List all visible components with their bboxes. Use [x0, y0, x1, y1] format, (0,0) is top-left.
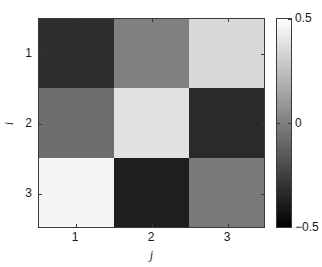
- heatmap-cell-r3c3: [189, 158, 264, 227]
- xtick-label-3: 3: [212, 231, 242, 243]
- ytick-label-1: 1: [16, 47, 32, 59]
- heatmap-cell-r3c1: [39, 158, 114, 227]
- ytick-label-3: 3: [16, 187, 32, 199]
- xtick-mark-top-1: [76, 18, 77, 22]
- xtick-mark-3: [228, 224, 229, 228]
- ytick-mark-right-3: [261, 194, 265, 195]
- xtick-label-1: 1: [60, 231, 90, 243]
- heatmap-cell-r1c1: [39, 19, 114, 88]
- ytick-mark-3: [38, 194, 42, 195]
- xtick-mark-2: [152, 224, 153, 228]
- heatmap-cell-r2c2: [114, 88, 189, 157]
- y-axis-label: i: [2, 112, 17, 136]
- figure-canvas: 1 2 3 1 2 3 j i 0.5 0 −0.5: [0, 0, 322, 267]
- ytick-mark-right-2: [261, 124, 265, 125]
- heatmap-cell-r3c2: [114, 158, 189, 227]
- colorbar-label-mid: 0: [295, 117, 302, 129]
- colorbar-label-min: −0.5: [295, 221, 319, 233]
- colorbar-label-max: 0.5: [295, 12, 312, 24]
- xtick-mark-top-3: [228, 18, 229, 22]
- heatmap-cell-r2c1: [39, 88, 114, 157]
- x-axis-label: j: [38, 248, 265, 263]
- ytick-mark-1: [38, 54, 42, 55]
- colorbar: [276, 18, 292, 228]
- ytick-label-2: 2: [16, 117, 32, 129]
- xtick-mark-top-2: [152, 18, 153, 22]
- xtick-label-2: 2: [136, 231, 166, 243]
- heatmap-grid: [39, 19, 264, 227]
- heatmap-cell-r1c3: [189, 19, 264, 88]
- colorbar-tick-bottom: [288, 227, 292, 228]
- xtick-mark-1: [76, 224, 77, 228]
- ytick-mark-2: [38, 124, 42, 125]
- colorbar-tick-left-mid: [276, 123, 280, 124]
- ytick-mark-right-1: [261, 54, 265, 55]
- heatmap-cell-r1c2: [114, 19, 189, 88]
- colorbar-tick-mid: [288, 123, 292, 124]
- heatmap-axes: [38, 18, 265, 228]
- colorbar-tick-top: [288, 19, 292, 20]
- heatmap-cell-r2c3: [189, 88, 264, 157]
